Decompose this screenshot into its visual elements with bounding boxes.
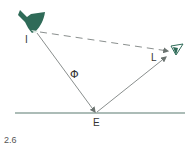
reflected-ray (97, 57, 166, 112)
label-observer: L (151, 53, 157, 63)
lamp-icon (18, 10, 45, 33)
label-reflection-point: E (93, 118, 100, 128)
direct-ray-dashed (40, 32, 168, 51)
figure-number: 2.6 (4, 136, 17, 145)
eye-icon (171, 44, 183, 55)
label-angle: Φ (70, 69, 79, 80)
label-source: I (25, 35, 28, 45)
incident-ray (37, 33, 95, 112)
